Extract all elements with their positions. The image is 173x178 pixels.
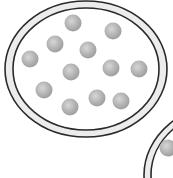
dish-main: [5, 1, 167, 137]
particle-dot: [103, 60, 120, 77]
particle-dot: [36, 82, 53, 99]
particle-dot: [63, 64, 80, 81]
particle-dot: [65, 15, 82, 32]
petri-dish-diagram: [0, 0, 173, 178]
particle-dot: [22, 51, 39, 68]
dish-secondary: [144, 103, 173, 178]
particle-dot: [47, 36, 64, 53]
particle-dot: [89, 90, 106, 107]
particle-dot: [80, 42, 97, 59]
particle-dot: [105, 23, 122, 40]
particle-dot: [62, 99, 79, 116]
particle-dot: [131, 61, 148, 78]
particle-dot: [113, 93, 130, 110]
